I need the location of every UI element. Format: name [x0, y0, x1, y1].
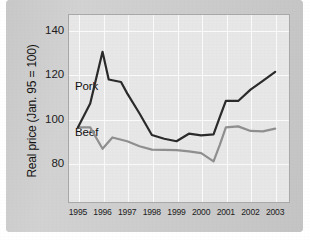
chart-figure: Pork Beef 140 120 100 80 1995 1996 1997 …: [0, 0, 310, 240]
y-axis-title: Real price (Jan. 95 = 100): [25, 18, 39, 204]
x-axis-ticks: 1995 1996 1997 1998 1999 2000 2001 2002 …: [68, 207, 290, 223]
line-beef: [78, 126, 275, 161]
series-lines: [68, 14, 290, 203]
line-pork: [78, 52, 275, 141]
x-tick-2003: 2003: [260, 207, 290, 217]
